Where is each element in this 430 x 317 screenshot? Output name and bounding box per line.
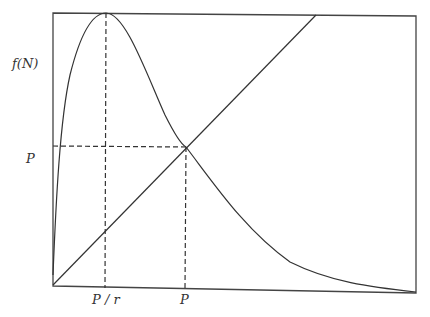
y-axis-label: f(N): [11, 56, 38, 71]
x-tick-p-over-r: P / r: [91, 292, 120, 307]
y-tick-p: P: [25, 151, 35, 166]
dashed-vertical-p: [185, 147, 186, 289]
dashed-vertical-pr: [105, 13, 106, 288]
chart: f(N) P P / r P: [0, 0, 430, 317]
plot-frame: [53, 13, 416, 293]
reproduction-curve: [53, 13, 416, 292]
replacement-line: [53, 15, 316, 285]
dashed-horizontal-p: [53, 146, 186, 147]
x-tick-p: P: [179, 292, 189, 307]
